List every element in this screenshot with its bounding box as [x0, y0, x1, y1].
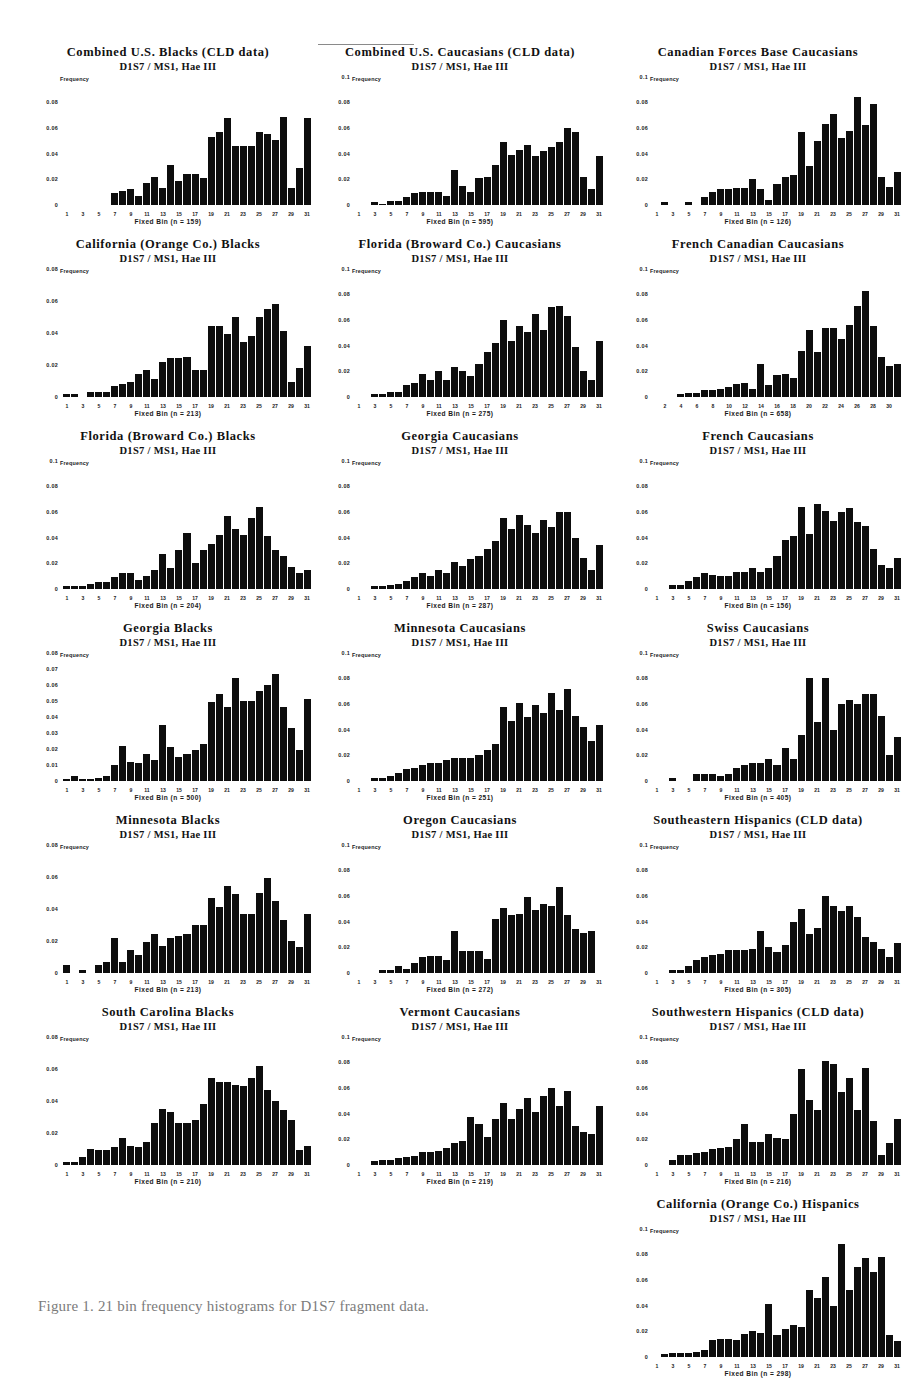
x-tick-label: 7 [114, 1171, 117, 1177]
x-tick-label: 29 [288, 595, 294, 601]
plot-area: Frequency0.10.080.060.040.02013579111315… [18, 461, 318, 601]
histogram-bar [151, 760, 158, 781]
histogram-bar [516, 1109, 523, 1165]
x-tick-label: 15 [766, 787, 772, 793]
plot-area: Frequency0.080.060.040.02013579111315171… [18, 1037, 318, 1177]
histogram-bar [830, 730, 837, 781]
histogram-bar [256, 893, 263, 973]
x-tick-label: 25 [256, 979, 262, 985]
y-tick-label: 0.1 [640, 266, 648, 272]
histogram-bar [135, 580, 142, 589]
histogram-bar [556, 306, 563, 397]
histogram-bar [95, 392, 102, 397]
x-tick-label: 1 [66, 979, 69, 985]
x-tick-label: 19 [798, 211, 804, 217]
panel-title-sub: D1S7 / MS1, Hae III [310, 637, 610, 648]
y-tick-label: 0.1 [640, 1226, 648, 1232]
histogram-bar [564, 316, 571, 397]
histogram-bar [119, 191, 126, 205]
y-tick-label: 0.02 [338, 176, 350, 182]
x-tick-label: 23 [532, 1171, 538, 1177]
x-tick-label: 3 [374, 211, 377, 217]
x-tick-label: 21 [516, 595, 522, 601]
histogram-bar [387, 1160, 394, 1165]
histogram-bar [508, 341, 515, 397]
histogram-bar [264, 134, 271, 204]
histogram-bar [717, 389, 724, 397]
x-tick-label: 29 [878, 595, 884, 601]
histogram-bar [87, 779, 94, 781]
x-axis-ticks: 135791113151719212325272931 [355, 206, 603, 217]
x-tick-label: 5 [688, 1171, 691, 1177]
x-tick-label: 27 [564, 595, 570, 601]
histogram-bar [661, 202, 668, 205]
histogram-bar [467, 1117, 474, 1164]
histogram-bar [224, 1082, 231, 1165]
histogram-bar [733, 1340, 740, 1357]
histogram-bar [395, 201, 402, 205]
x-tick-label: 23 [830, 979, 836, 985]
x-tick-label: 1 [66, 787, 69, 793]
histogram-bar [119, 384, 126, 397]
histogram-bar [419, 765, 426, 780]
histogram-bar [733, 1139, 740, 1165]
histogram-bar [175, 358, 182, 396]
y-tick-label: 0 [347, 202, 350, 208]
histogram-bar [741, 1124, 748, 1165]
x-tick-label: 3 [672, 1171, 675, 1177]
x-tick-label: 19 [500, 979, 506, 985]
x-tick-label: 7 [704, 1171, 707, 1177]
plot-area: Frequency0.080.060.040.02013579111315171… [18, 845, 318, 985]
histogram-bar [749, 568, 756, 588]
x-tick-label: 17 [484, 979, 490, 985]
histogram-bar [765, 385, 772, 397]
histogram-bar [71, 776, 78, 781]
x-tick-label: 29 [580, 787, 586, 793]
x-tick-label: 5 [688, 979, 691, 985]
histogram-panel: Minnesota CaucasiansD1S7 / MS1, Hae IIIF… [310, 622, 610, 814]
x-tick-label: 5 [98, 979, 101, 985]
histogram-bar [580, 558, 587, 589]
y-tick-label: 0 [645, 394, 648, 400]
histogram-bar [556, 512, 563, 589]
y-tick-label: 0.02 [46, 362, 58, 368]
x-tick-label: 29 [580, 979, 586, 985]
histogram-bar [63, 586, 70, 589]
histogram-bar [733, 572, 740, 589]
bar-series [355, 77, 603, 205]
y-axis-ticks: 0.10.080.060.040.020 [310, 1037, 350, 1165]
x-tick-label: 3 [82, 595, 85, 601]
x-tick-label: 31 [894, 211, 900, 217]
histogram-bar [63, 1162, 70, 1165]
x-tick-label: 3 [672, 595, 675, 601]
y-tick-label: 0.08 [46, 483, 58, 489]
histogram-bar [588, 931, 595, 973]
histogram-bar [387, 201, 394, 205]
x-tick-label: 13 [750, 211, 756, 217]
plot-area: Frequency0.10.080.060.040.02013579111315… [310, 845, 610, 985]
histogram-panel: French Canadian CaucasiansD1S7 / MS1, Ha… [608, 238, 908, 430]
histogram-bar [701, 573, 708, 588]
x-tick-label: 28 [870, 403, 876, 409]
histogram-bar [395, 392, 402, 397]
histogram-bar [451, 367, 458, 396]
histogram-bar [451, 931, 458, 973]
histogram-bar [540, 151, 547, 205]
histogram-bar [111, 765, 118, 781]
histogram-bar [854, 97, 861, 205]
histogram-bar [79, 779, 86, 781]
x-tick-label: 31 [596, 979, 602, 985]
x-tick-label: 31 [894, 1363, 900, 1369]
x-tick-label: 1 [358, 979, 361, 985]
histogram-bar [79, 1157, 86, 1165]
x-axis-ticks: 135791113151719212325272931 [355, 398, 603, 409]
x-tick-label: 15 [766, 979, 772, 985]
panel-title: Minnesota CaucasiansD1S7 / MS1, Hae III [310, 622, 610, 648]
histogram-bar [459, 1141, 466, 1165]
x-tick-label: 9 [130, 787, 133, 793]
x-tick-label: 15 [176, 1171, 182, 1177]
histogram-bar [451, 758, 458, 781]
y-axis-ticks: 0.10.080.060.040.020 [310, 461, 350, 589]
x-tick-label: 19 [208, 1171, 214, 1177]
y-tick-label: 0.08 [636, 291, 648, 297]
